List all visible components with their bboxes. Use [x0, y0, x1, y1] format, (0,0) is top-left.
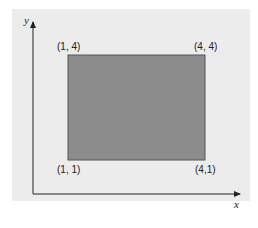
rectangle-shape — [68, 55, 205, 160]
diagram-canvas — [0, 0, 258, 228]
corner-label-top-left: (1, 4) — [57, 41, 80, 52]
corner-label-bottom-right: (4,1) — [195, 164, 216, 175]
y-axis-label: y — [24, 14, 29, 26]
corner-label-bottom-left: (1, 1) — [57, 164, 80, 175]
x-axis-label: x — [234, 198, 239, 210]
corner-label-top-right: (4, 4) — [194, 41, 217, 52]
